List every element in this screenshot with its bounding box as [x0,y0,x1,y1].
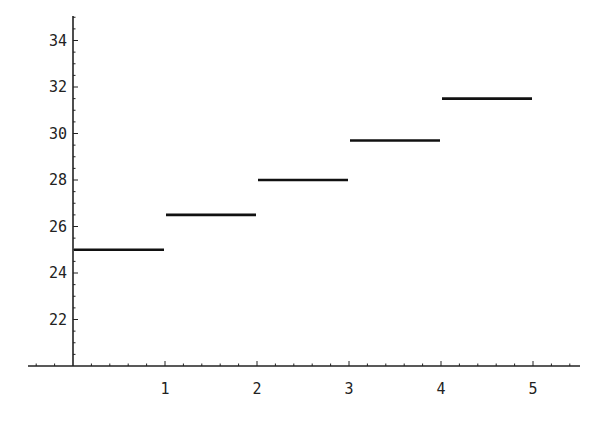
x-tick-label: 5 [528,380,537,398]
axes [28,16,580,366]
x-tick-label: 3 [344,380,353,398]
x-tick-label: 1 [160,380,169,398]
y-tick-label: 32 [49,78,67,96]
y-tick-label: 28 [49,171,67,189]
step-chart: 12345 22242628303234 [0,0,613,422]
x-tick-label: 2 [252,380,261,398]
y-tick-label: 24 [49,264,67,282]
y-tick-label: 30 [49,125,67,143]
step-segments [74,99,532,250]
y-tick-label: 22 [49,311,67,329]
y-tick-label: 34 [49,32,67,50]
x-tick-label: 4 [436,380,445,398]
y-tick-label: 26 [49,218,67,236]
